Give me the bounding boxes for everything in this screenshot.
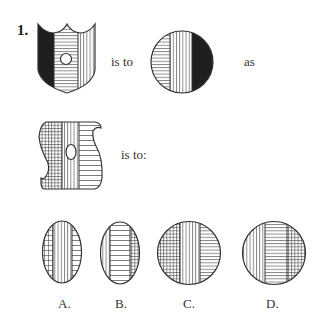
option-a-figure[interactable]: [40, 218, 84, 288]
circle-figure: [150, 30, 214, 94]
figures-canvas: [0, 0, 323, 327]
option-c-figure[interactable]: [156, 220, 224, 286]
option-b-figure[interactable]: [98, 218, 142, 288]
s-shape-oval: [66, 145, 76, 160]
option-d-figure[interactable]: [240, 220, 309, 286]
shield-small-circle: [61, 54, 72, 65]
